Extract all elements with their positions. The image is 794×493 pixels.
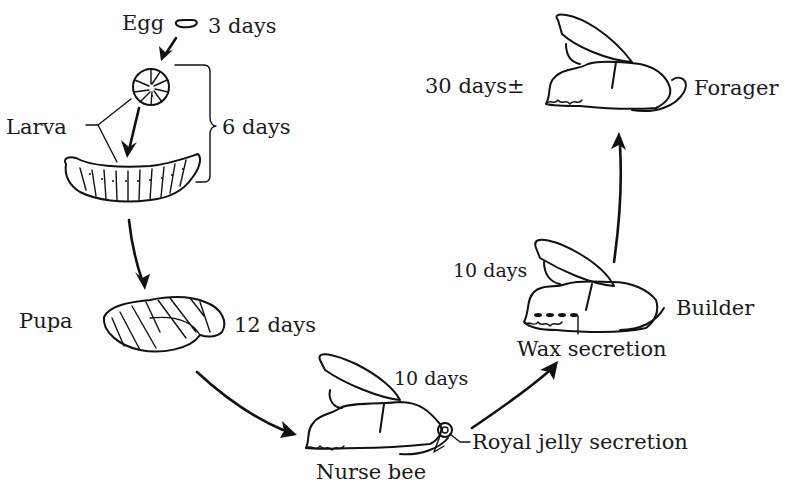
arrow-builder-to-forager bbox=[611, 132, 626, 262]
builder-label: Builder bbox=[676, 298, 754, 319]
arrow-pupa-to-nurse bbox=[197, 372, 297, 438]
larva-pointer-lines bbox=[86, 99, 131, 162]
bee-life-cycle-diagram: Egg 3 days Larva 6 days Pupa 12 days Nur… bbox=[0, 0, 794, 493]
arrow-young-to-grown-larva bbox=[121, 108, 139, 158]
larva-duration: 6 days bbox=[222, 117, 291, 138]
diagram-artwork bbox=[0, 0, 794, 493]
larva-label: Larva bbox=[6, 117, 67, 138]
larva-duration-brace bbox=[175, 65, 216, 182]
arrow-egg-to-larva bbox=[159, 38, 176, 61]
grown-larva-illustration bbox=[65, 154, 200, 202]
egg-label: Egg bbox=[122, 13, 164, 34]
pupa-illustration bbox=[104, 297, 224, 351]
egg-illustration bbox=[176, 20, 197, 27]
arrow-larva-to-pupa bbox=[129, 220, 150, 290]
royal-jelly-annotation: Royal jelly secretion bbox=[472, 432, 688, 453]
nurse-bee-label: Nurse bee bbox=[316, 462, 426, 483]
wax-secretion-annotation: Wax secretion bbox=[517, 339, 667, 360]
forager-duration: 30 days± bbox=[425, 76, 525, 97]
young-larva-illustration bbox=[133, 69, 169, 105]
egg-duration: 3 days bbox=[208, 16, 277, 37]
builder-duration: 10 days bbox=[453, 261, 527, 280]
pupa-duration: 12 days bbox=[234, 315, 316, 336]
forager-bee-illustration bbox=[546, 14, 686, 111]
pupa-label: Pupa bbox=[19, 311, 73, 332]
nurse-bee-duration: 10 days bbox=[394, 369, 468, 388]
forager-label: Forager bbox=[694, 78, 779, 99]
builder-bee-illustration bbox=[524, 240, 664, 334]
arrow-nurse-to-builder bbox=[472, 361, 558, 428]
